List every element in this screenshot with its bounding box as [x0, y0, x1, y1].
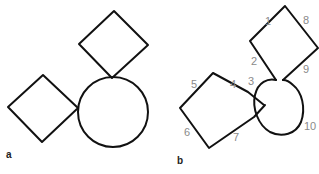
stroke-number-6: 6	[184, 126, 190, 138]
circle-b	[254, 80, 303, 135]
panel-b: 1 2 3 4 5 6 7 8 9 10 b	[177, 6, 318, 166]
left-diamond-a	[8, 75, 78, 142]
panel-a: a	[6, 11, 148, 160]
stroke-number-1: 1	[265, 15, 271, 27]
circle-a	[78, 77, 148, 147]
panel-label-b: b	[177, 155, 183, 166]
top-diamond-a	[79, 11, 148, 78]
figure: a 1 2 3 4 5 6 7 8 9 10 b	[0, 0, 319, 174]
panel-label-a: a	[6, 149, 12, 160]
stroke-number-4: 4	[230, 78, 236, 90]
stroke-number-2: 2	[251, 55, 257, 67]
stroke-number-8: 8	[303, 14, 309, 26]
stroke-number-5: 5	[191, 78, 197, 90]
stroke-number-9: 9	[303, 63, 309, 75]
stroke-number-10: 10	[304, 120, 316, 132]
stroke-number-7: 7	[233, 131, 239, 143]
stroke-number-3: 3	[248, 75, 254, 87]
